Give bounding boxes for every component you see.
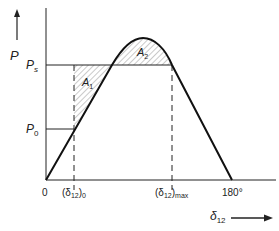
- p0-label: P0: [26, 122, 39, 138]
- up-arrow-icon: [14, 9, 20, 17]
- y-axis-label: P: [10, 48, 19, 63]
- ps-label: Ps: [26, 58, 38, 74]
- equal-area-criterion-diagram: P Ps P0 A1 A2 0 (δ12)0 (δ12)max 180° δ12: [0, 0, 279, 231]
- x-axis-label: δ12: [210, 209, 226, 225]
- deltamax-tick-label: (δ12)max: [155, 187, 189, 199]
- right-arrow-icon: [264, 215, 273, 222]
- 180-tick-label: 180°: [222, 187, 243, 198]
- origin-tick-label: 0: [42, 187, 48, 198]
